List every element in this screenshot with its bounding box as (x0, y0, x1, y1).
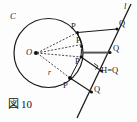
label-radius-r: r (48, 69, 51, 77)
figure-10-container: C O r l P P P P Q Q H=Q Q 図10 (0, 0, 137, 122)
caption-mark: 図 (8, 98, 19, 111)
radius-line-4 (37, 53, 70, 78)
label-point-q-1: Q (119, 19, 125, 28)
caption-number: 10 (21, 98, 32, 110)
label-point-q-4: Q (94, 85, 100, 94)
label-foot-point-h-equals-q: H=Q (101, 66, 118, 75)
segment-p1-q1 (78, 29, 118, 33)
label-center-o: O (26, 48, 32, 57)
q-dot-4 (90, 91, 93, 94)
label-point-q-2: Q (113, 44, 119, 53)
label-point-p-2: P (76, 36, 81, 45)
p-dot-1 (76, 31, 79, 34)
label-point-p-1: P (71, 22, 76, 31)
segment-p3-q3 (81, 57, 102, 71)
radius-line-2 (37, 45, 82, 54)
p-dot-3 (80, 56, 83, 59)
label-point-p-3: P (75, 57, 80, 66)
radius-line-1 (37, 33, 78, 54)
label-line-l: l (124, 2, 126, 11)
p-dot-2 (80, 45, 83, 48)
label-point-p-4: P (63, 81, 68, 90)
figure-caption: 図10 (8, 99, 32, 110)
label-circle-c: C (10, 12, 16, 21)
q-dot-2 (109, 51, 112, 54)
p-dot-4 (68, 76, 72, 80)
segment-p4-q4 (70, 78, 92, 92)
